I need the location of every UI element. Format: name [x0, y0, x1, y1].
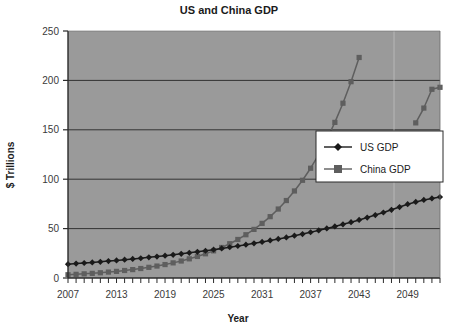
legend-label-china: China GDP: [360, 164, 411, 175]
y-tick-label: 0: [53, 273, 59, 284]
legend[interactable]: US GDP China GDP: [316, 131, 443, 182]
y-tick-label: 150: [42, 124, 59, 135]
x-tick-label: 2037: [299, 289, 322, 300]
y-axis-label: $ Trillions: [5, 141, 16, 188]
square-icon: [334, 165, 342, 173]
x-tick-label: 2025: [202, 289, 225, 300]
chart-title: US and China GDP: [180, 4, 278, 16]
chart-figure: US and China GDP 050100150200250 2007201…: [0, 0, 458, 336]
x-axis-label: Year: [227, 313, 248, 324]
x-tick-label: 2031: [251, 289, 274, 300]
y-tick-label: 50: [48, 223, 60, 234]
x-tick-label: 2019: [154, 289, 177, 300]
gdp-line-chart: US and China GDP 050100150200250 2007201…: [0, 0, 458, 336]
y-tick-label: 100: [42, 174, 59, 185]
x-tick-label: 2043: [348, 289, 371, 300]
x-tick-label: 2049: [397, 289, 420, 300]
legend-label-us: US GDP: [360, 142, 399, 153]
x-tick-label: 2013: [105, 289, 128, 300]
y-tick-label: 200: [42, 75, 59, 86]
x-tick-label: 2007: [57, 289, 80, 300]
y-tick-label: 250: [42, 26, 59, 37]
